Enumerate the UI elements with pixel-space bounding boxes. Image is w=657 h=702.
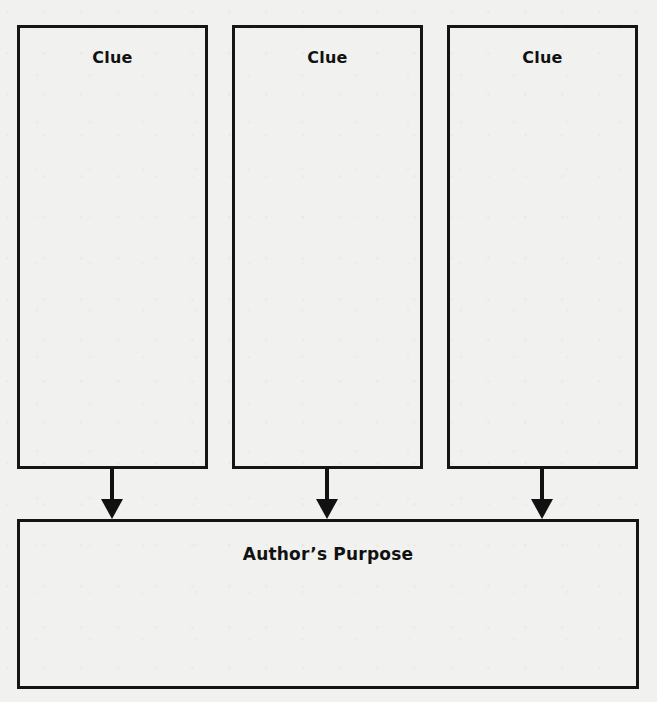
clue-box-2[interactable]: Clue — [232, 25, 423, 469]
clue-box-3[interactable]: Clue — [447, 25, 638, 469]
arrow-down-icon — [316, 469, 338, 519]
authors-purpose-box[interactable]: Author’s Purpose — [17, 519, 639, 689]
arrow-head — [316, 499, 338, 519]
arrow-shaft — [110, 469, 114, 501]
clue-box-3-title: Clue — [450, 48, 635, 67]
arrow-head — [531, 499, 553, 519]
authors-purpose-title: Author’s Purpose — [20, 544, 636, 564]
clue-box-1[interactable]: Clue — [17, 25, 208, 469]
arrow-head — [101, 499, 123, 519]
arrow-shaft — [540, 469, 544, 501]
clue-box-2-title: Clue — [235, 48, 420, 67]
arrow-down-icon — [101, 469, 123, 519]
arrow-shaft — [325, 469, 329, 501]
arrow-down-icon — [531, 469, 553, 519]
clue-box-1-title: Clue — [20, 48, 205, 67]
